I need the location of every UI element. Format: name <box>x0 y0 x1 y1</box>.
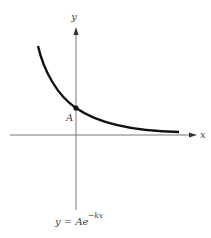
equation-base: y = Ae <box>54 216 89 227</box>
equation-label: y = Ae −kx <box>54 211 104 227</box>
exponential-decay-curve <box>38 46 179 132</box>
x-axis <box>10 133 197 138</box>
exponential-decay-diagram: y x A y = Ae −kx <box>0 0 211 238</box>
y-intercept-point <box>73 105 78 110</box>
intercept-label: A <box>65 112 73 123</box>
y-axis-label: y <box>70 11 77 22</box>
x-axis-arrow-icon <box>189 133 197 138</box>
equation-exponent: −kx <box>88 211 104 220</box>
y-axis-arrow-icon <box>74 27 79 35</box>
x-axis-label: x <box>200 129 206 140</box>
y-axis <box>74 27 79 210</box>
